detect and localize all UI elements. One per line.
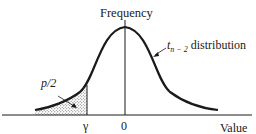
curve-label: tn − 2 distribution (167, 38, 246, 54)
curve-label-subscript: n − 2 (170, 45, 187, 54)
x-tick-zero: 0 (121, 119, 127, 133)
x-tick-gamma: γ (82, 119, 89, 133)
y-axis-label: Frequency (100, 6, 154, 20)
x-axis-label: Value (220, 121, 247, 134)
t-distribution-diagram: Frequency tn − 2 distribution p/2 γ 0 Va… (0, 0, 256, 134)
curve-label-suffix: distribution (188, 38, 246, 52)
arrowhead-icon (153, 52, 159, 57)
shaded-tail-region (35, 86, 87, 115)
shaded-region-label: p/2 (40, 76, 56, 90)
